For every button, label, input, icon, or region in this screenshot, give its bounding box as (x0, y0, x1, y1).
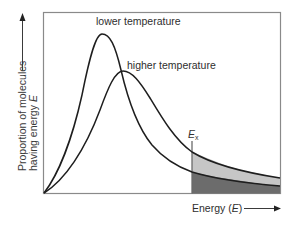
y-axis-label-line2-prefix: having energy (27, 102, 39, 171)
curve-lower-temperature (44, 34, 280, 193)
x-axis-label-prefix: Energy ( (192, 202, 232, 214)
label-lower-temperature: lower temperature (96, 15, 181, 27)
y-axis-label-line2: having energy E (27, 94, 39, 171)
plot-frame (44, 13, 281, 194)
y-axis-label: Proportion of molecules having energy E (16, 61, 39, 171)
label-ex-subscript: x (195, 134, 199, 141)
x-axis-arrow-icon (274, 206, 281, 212)
y-axis-label-line2-var: E (27, 94, 39, 102)
x-axis-label-suffix: ) (239, 202, 243, 214)
label-higher-temperature: higher temperature (127, 59, 216, 71)
y-axis-arrow-icon (20, 13, 26, 21)
maxwell-boltzmann-chart: lower temperature higher temperature Ex … (0, 0, 298, 226)
label-ex: Ex (188, 128, 199, 141)
x-axis-label: Energy (E) (192, 202, 242, 214)
chart-canvas: lower temperature higher temperature Ex … (0, 0, 298, 226)
